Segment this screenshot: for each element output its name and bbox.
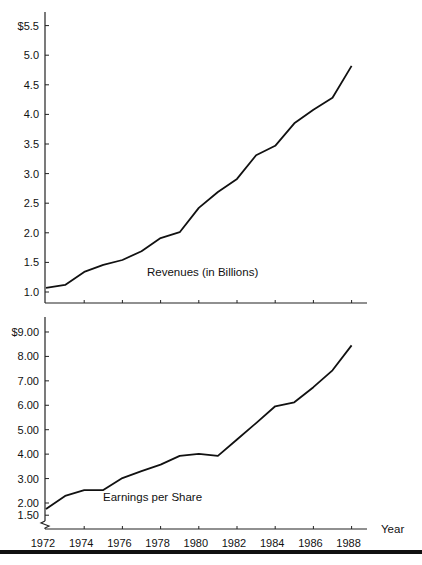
y-tick-label: 3.5 [24,138,39,150]
y-tick-label: 8.00 [18,350,39,362]
x-tick-label: 1974 [69,537,93,549]
eps-series-label: Earnings per Share [103,491,202,503]
x-tick-label: 1988 [336,537,360,549]
x-tick-label: 1980 [184,537,208,549]
x-tick-label: 1986 [298,537,322,549]
x-axis-title: Year [381,523,404,535]
y-tick-label: 5.00 [18,424,39,436]
y-tick-label: 1.50 [18,509,39,521]
eps-line [46,345,352,509]
y-tick-label: 6.00 [18,399,39,411]
revenue-y-ticks: 1.01.52.02.53.03.54.04.55.0$5.5 [18,20,49,298]
revenue-chart: 1.01.52.02.53.03.54.04.55.0$5.5 Revenues… [18,12,367,303]
y-tick-label: 1.0 [24,286,39,298]
y-tick-label: 2.00 [18,497,39,509]
revenue-series-label: Revenues (in Billions) [147,266,258,278]
y-tick-label: $9.00 [11,326,39,338]
y-tick-label: 3.00 [18,473,39,485]
y-tick-label: 2.0 [24,227,39,239]
x-tick-label: 1984 [260,537,284,549]
x-tick-label: 1978 [145,537,169,549]
eps-y-ticks: 1.502.003.004.005.006.007.008.00$9.00 [11,326,49,521]
y-tick-label: 4.5 [24,79,39,91]
x-tick-labels: 197219741976197819801982198419861988 [31,537,361,549]
y-tick-label: 4.00 [18,448,39,460]
y-tick-label: 4.0 [24,108,39,120]
axis-break-icon [41,521,49,529]
bottom-rule [0,550,422,554]
x-tick-label: 1972 [31,537,55,549]
chart-canvas: 1.01.52.02.53.03.54.04.55.0$5.5 Revenues… [0,0,422,565]
eps-chart: 1.502.003.004.005.006.007.008.00$9.00 Ea… [11,317,404,549]
revenue-line [46,66,352,288]
y-tick-label: 1.5 [24,256,39,268]
y-tick-label: 5.0 [24,49,39,61]
y-tick-label: 2.5 [24,197,39,209]
x-tick-label: 1982 [222,537,246,549]
y-tick-label: 7.00 [18,375,39,387]
y-tick-label: $5.5 [18,20,39,32]
y-tick-label: 3.0 [24,168,39,180]
x-tick-label: 1976 [107,537,131,549]
